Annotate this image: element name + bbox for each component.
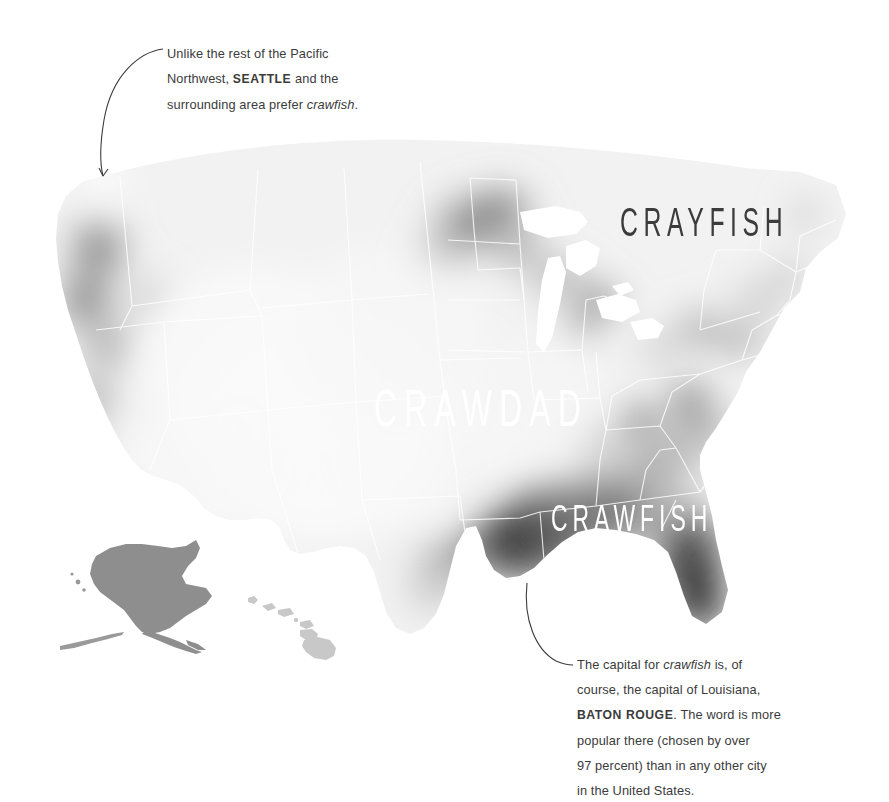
annotation-text: is, of <box>711 657 742 672</box>
annotation-seattle-line3: surrounding area prefer crawfish. <box>167 92 382 117</box>
annotation-text: and the <box>291 71 338 86</box>
annotation-batonrouge-line5: 97 percent) than in any other city <box>577 753 782 778</box>
annotation-batonrouge-line4: popular there (chosen by over <box>577 728 782 753</box>
annotation-text: Unlike the rest of the Pacific <box>167 46 329 61</box>
annotation-seattle-line2: Northwest, SEATTLE and the <box>167 66 382 92</box>
annotation-baton-rouge: The capital for crawfish is, of course, … <box>577 652 782 802</box>
annotation-italic-crawfish: crawfish <box>663 657 711 672</box>
annotation-seattle-line1: Unlike the rest of the Pacific <box>167 41 382 66</box>
annotation-emphasis-seattle: SEATTLE <box>233 72 291 86</box>
annotation-seattle: Unlike the rest of the Pacific Northwest… <box>167 41 382 117</box>
annotation-text: in the United States. <box>577 783 694 798</box>
annotation-batonrouge-line6: in the United States. <box>577 778 782 802</box>
annotation-text: Northwest, <box>167 71 233 86</box>
annotation-text: 97 percent) than in any other city <box>577 758 767 773</box>
annotation-text: . The word is more <box>673 707 781 722</box>
annotation-text: The capital for <box>577 657 663 672</box>
annotation-text: surrounding area prefer <box>167 97 307 112</box>
annotation-italic-crawfish: crawfish <box>307 97 355 112</box>
hawaii-inset <box>248 596 336 660</box>
annotation-batonrouge-line1: The capital for crawfish is, of <box>577 652 782 677</box>
dialect-map-figure: CRAYFISH CRAWDAD CRAWFISH Unlike the res… <box>0 0 889 802</box>
annotation-emphasis-baton-rouge: BATON ROUGE <box>577 708 673 722</box>
annotation-batonrouge-line3: BATON ROUGE. The word is more <box>577 702 782 728</box>
annotation-text: popular there (chosen by over <box>577 733 750 748</box>
annotation-text: . <box>354 97 358 112</box>
annotation-text: course, the capital of Louisiana, <box>577 682 760 697</box>
alaska-inset <box>60 540 212 654</box>
annotation-batonrouge-line2: course, the capital of Louisiana, <box>577 677 782 702</box>
